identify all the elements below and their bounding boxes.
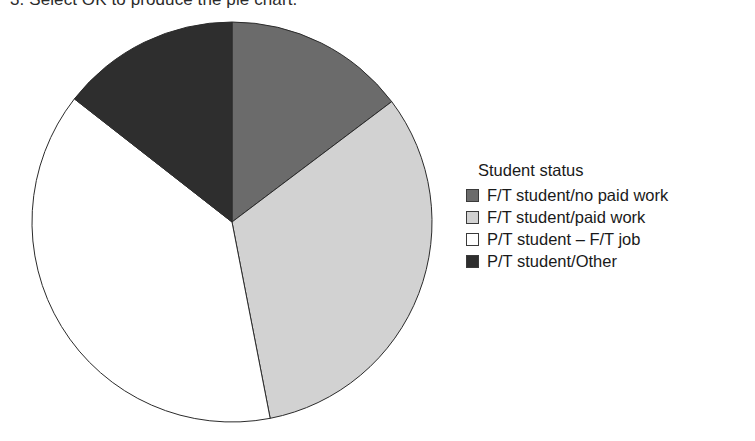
legend-item: P/T student – F/T job bbox=[466, 228, 751, 250]
legend-swatch-ft-paid-work bbox=[466, 211, 479, 224]
pie-chart-svg bbox=[0, 0, 470, 441]
legend-item-label: F/T student/paid work bbox=[487, 207, 645, 228]
legend-title: Student status bbox=[478, 160, 751, 181]
legend-item: F/T student/no paid work bbox=[466, 184, 751, 206]
legend-item-label: P/T student/Other bbox=[487, 251, 617, 272]
legend-swatch-ft-no-paid-work bbox=[466, 189, 479, 202]
legend-item-label: F/T student/no paid work bbox=[487, 185, 668, 206]
chart-legend: Student status F/T student/no paid workF… bbox=[466, 160, 751, 272]
pie-chart-figure: 3. Select OK to produce the pie chart. S… bbox=[0, 0, 755, 441]
legend-swatch-pt-other bbox=[466, 255, 479, 268]
pie-chart-area bbox=[0, 0, 470, 441]
legend-item: F/T student/paid work bbox=[466, 206, 751, 228]
legend-item: P/T student/Other bbox=[466, 250, 751, 272]
legend-item-label: P/T student – F/T job bbox=[487, 229, 640, 250]
legend-swatch-pt-ft-job bbox=[466, 233, 479, 246]
